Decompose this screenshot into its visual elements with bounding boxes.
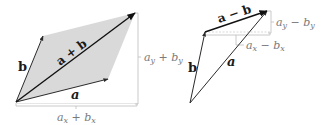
label-b-right: b — [188, 60, 197, 75]
right-diagram: b a a − b ax − bx ay − by — [188, 2, 315, 103]
label-ay-minus-by: ay − by — [276, 16, 315, 30]
label-a-right: a — [227, 54, 235, 69]
vertical-brace-diff — [268, 11, 274, 33]
vector-diagram: b a a + b ax + bx ay + by — [0, 0, 327, 125]
label-ax-minus-bx: ax − bx — [246, 39, 285, 53]
label-a-left: a — [71, 87, 79, 102]
label-b-left: b — [18, 59, 27, 74]
label-ax-plus-bx: ax + bx — [57, 111, 96, 125]
diagram-canvas: b a a + b ax + bx ay + by — [0, 0, 327, 125]
left-diagram: b a a + b ax + bx ay + by — [16, 13, 183, 125]
vertical-brace-sum — [135, 13, 141, 104]
label-ay-plus-by: ay + by — [144, 51, 183, 65]
horizontal-brace-sum — [16, 103, 137, 109]
